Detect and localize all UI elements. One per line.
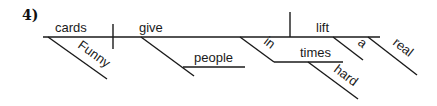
indirect-object-diagonal: [141, 37, 194, 76]
word-subject-modifier: Funny: [75, 37, 114, 70]
word-prep-object: times: [300, 45, 332, 60]
word-prep-object-modifier: hard: [331, 61, 361, 89]
word-indirect-object: people: [194, 50, 233, 65]
word-preposition: in: [261, 34, 278, 52]
word-adjective: real: [390, 35, 416, 60]
word-subject: cards: [55, 20, 87, 35]
item-number: 4): [22, 7, 38, 23]
word-verb1: give: [139, 20, 163, 35]
word-verb2: lift: [316, 20, 329, 35]
sentence-diagram: 4) cards Funny give people in times hard…: [0, 0, 437, 106]
